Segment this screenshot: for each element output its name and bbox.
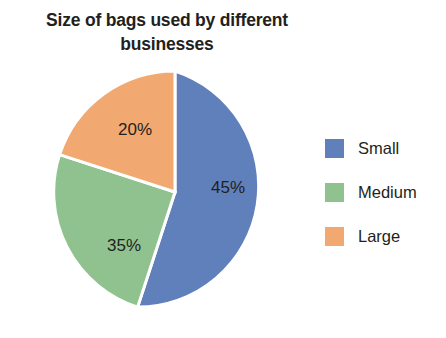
legend-swatch-large-icon [325,227,344,246]
pie-slice-value-large: 20% [118,120,152,139]
legend-item-medium[interactable]: Medium [325,170,443,214]
chart-legend: Small Medium Large [325,126,443,258]
legend-label-large: Large [358,227,400,246]
legend-swatch-medium-icon [325,183,344,202]
chart-title: Size of bags used by different businesse… [8,8,326,56]
pie-slice-value-medium: 35% [107,236,141,255]
legend-swatch-small-icon [325,139,344,158]
legend-item-small[interactable]: Small [325,126,443,170]
legend-item-large[interactable]: Large [325,214,443,258]
pie-chart-figure: Size of bags used by different businesse… [0,0,446,338]
legend-label-small: Small [358,139,399,158]
pie-chart-plot-area: 45% 35% 20% [54,71,296,313]
pie-svg: 45% 35% 20% [54,71,296,313]
legend-label-medium: Medium [358,183,417,202]
pie-slice-value-small: 45% [211,178,245,197]
